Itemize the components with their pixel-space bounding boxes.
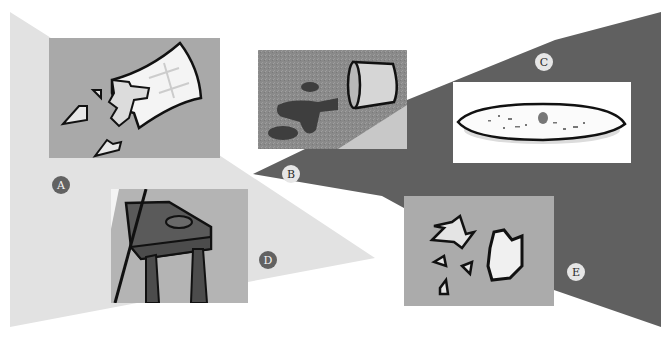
label-badge-a: A: [52, 176, 70, 194]
panel-a-shattered-glass: [49, 38, 220, 158]
spilled-cup-illustration: [258, 50, 407, 149]
panel-e-broken-pieces: [404, 196, 554, 306]
panel-d-table: [111, 189, 248, 303]
label-badge-c: C: [535, 53, 553, 71]
broken-pieces-illustration: [404, 196, 554, 306]
panel-b-spilled-cup: [258, 50, 407, 149]
table-illustration: [111, 189, 248, 303]
plate-illustration: [453, 82, 631, 163]
label-badge-d: D: [259, 251, 277, 269]
label-badge-e: E: [567, 263, 585, 281]
panel-c-plate: [453, 82, 631, 163]
label-badge-b: B: [282, 165, 300, 183]
shattered-glass-illustration: [49, 38, 220, 158]
